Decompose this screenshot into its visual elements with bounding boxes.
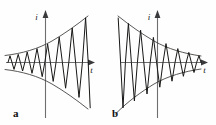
panel-a-i-axis-arrowhead <box>43 10 49 18</box>
panel-a-lower-envelope <box>5 70 88 110</box>
panel-a-i-label: i <box>35 12 38 22</box>
panel-b-i-axis-arrowhead <box>155 10 161 18</box>
panel-b-caption: b <box>112 107 118 119</box>
panel-a-t-label: t <box>90 65 93 75</box>
panel-a-caption: a <box>13 107 19 119</box>
panel-b: i t b <box>112 10 208 119</box>
oscillation-figure: i t a i t b <box>0 0 216 125</box>
panel-b-i-label: i <box>148 12 151 22</box>
panel-b-t-label: t <box>203 65 206 75</box>
figure-canvas: i t a i t b <box>0 0 216 125</box>
panel-a: i t a <box>5 10 95 119</box>
